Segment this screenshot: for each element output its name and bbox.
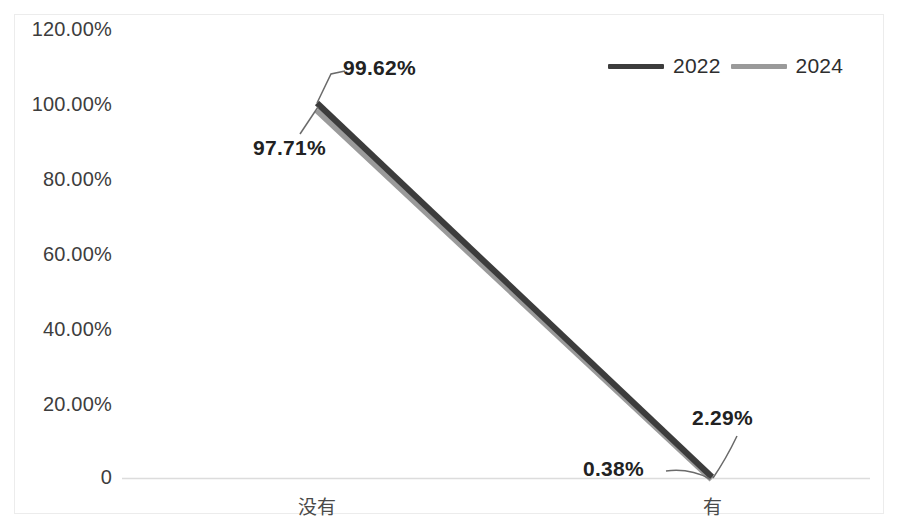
leader-line-upper-right (713, 436, 737, 478)
legend-swatch-2022 (608, 64, 664, 69)
series-line-2022 (317, 103, 712, 477)
x-tick-label-meiyou: 没有 (237, 492, 397, 519)
leader-line-upper-left (317, 71, 345, 103)
legend-label-2024: 2024 (796, 54, 844, 78)
legend-label-2022: 2022 (673, 54, 721, 78)
line-chart: 120.00% 100.00% 80.00% 60.00% 40.00% 20.… (0, 0, 899, 526)
x-tick-label-you: 有 (632, 492, 792, 519)
y-tick-label-0: 0 (0, 466, 112, 489)
chart-legend: 2022 2024 (608, 52, 843, 80)
data-label-2024-you: 0.38% (583, 457, 644, 481)
y-tick-label-80: 80.00% (0, 168, 112, 191)
y-tick-label-20: 20.00% (0, 393, 112, 416)
data-label-2022-you: 2.29% (692, 406, 753, 430)
y-tick-label-120: 120.00% (0, 18, 112, 41)
y-tick-label-100: 100.00% (0, 93, 112, 116)
leader-line-lower-left (300, 107, 318, 134)
y-tick-label-60: 60.00% (0, 243, 112, 266)
legend-item-2022[interactable]: 2022 (608, 54, 721, 78)
legend-item-2024[interactable]: 2024 (731, 54, 844, 78)
y-tick-label-40: 40.00% (0, 318, 112, 341)
data-label-2024-meiyou: 97.71% (253, 136, 326, 160)
data-label-2022-meiyou: 99.62% (343, 56, 416, 80)
legend-swatch-2024 (731, 64, 787, 69)
